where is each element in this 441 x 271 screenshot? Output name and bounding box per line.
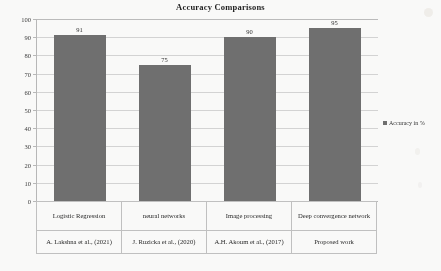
- y-axis-label-10: 10: [25, 179, 32, 186]
- legend-square-marker-icon: [383, 121, 387, 125]
- bar-0[interactable]: [54, 35, 106, 201]
- category-cell-1: neural networks: [122, 202, 207, 231]
- bar-value-label-2: 90: [246, 28, 253, 35]
- y-axis-label-80: 80: [25, 52, 32, 59]
- y-axis-label-60: 60: [25, 88, 32, 95]
- chart-page: Accuracy Comparisons 0102030405060708090…: [0, 0, 441, 271]
- y-axis-label-0: 0: [28, 198, 31, 205]
- y-axis-label-50: 50: [25, 107, 32, 114]
- bar-2[interactable]: [224, 37, 276, 201]
- category-cell-0: Logistic Regression: [37, 202, 122, 231]
- y-axis-label-30: 30: [25, 143, 32, 150]
- y-axis-label-70: 70: [25, 70, 32, 77]
- citation-cell-3: Proposed work: [292, 231, 377, 254]
- category-label-table: Logistic Regression neural networks Imag…: [36, 201, 377, 254]
- bar-slot-2: 90: [207, 19, 292, 201]
- chart-legend: Accuracy in %: [383, 120, 425, 126]
- y-axis-label-90: 90: [25, 34, 32, 41]
- y-axis-label-40: 40: [25, 125, 32, 132]
- y-axis-label-100: 100: [21, 16, 31, 23]
- category-cell-3: Deep convergence network: [292, 202, 377, 231]
- citation-cell-0: A. Lakshna et al., (2021): [37, 231, 122, 254]
- citation-row: A. Lakshna et al., (2021) J. Ruzicka et …: [37, 231, 377, 254]
- bar-slot-0: 91: [37, 19, 122, 201]
- bar-slot-3: 95: [292, 19, 377, 201]
- plot-area: 010203040506070809010091759095: [36, 19, 377, 201]
- bar-value-label-1: 75: [161, 56, 168, 63]
- bar-value-label-3: 95: [331, 19, 338, 26]
- bar-value-label-0: 91: [76, 26, 83, 33]
- bar-slot-1: 75: [122, 19, 207, 201]
- citation-cell-2: A.H. Akoum et al., (2017): [207, 231, 292, 254]
- bar-1[interactable]: [139, 65, 191, 202]
- scan-artifact: [415, 148, 420, 155]
- scan-artifact: [418, 182, 422, 188]
- legend-label: Accuracy in %: [389, 120, 425, 126]
- category-row: Logistic Regression neural networks Imag…: [37, 202, 377, 231]
- bar-3[interactable]: [309, 28, 361, 201]
- category-cell-2: Image processing: [207, 202, 292, 231]
- chart-title: Accuracy Comparisons: [0, 2, 441, 12]
- citation-cell-1: J. Ruzicka et al., (2020): [122, 231, 207, 254]
- scan-artifact: [424, 8, 433, 17]
- y-axis-label-20: 20: [25, 161, 32, 168]
